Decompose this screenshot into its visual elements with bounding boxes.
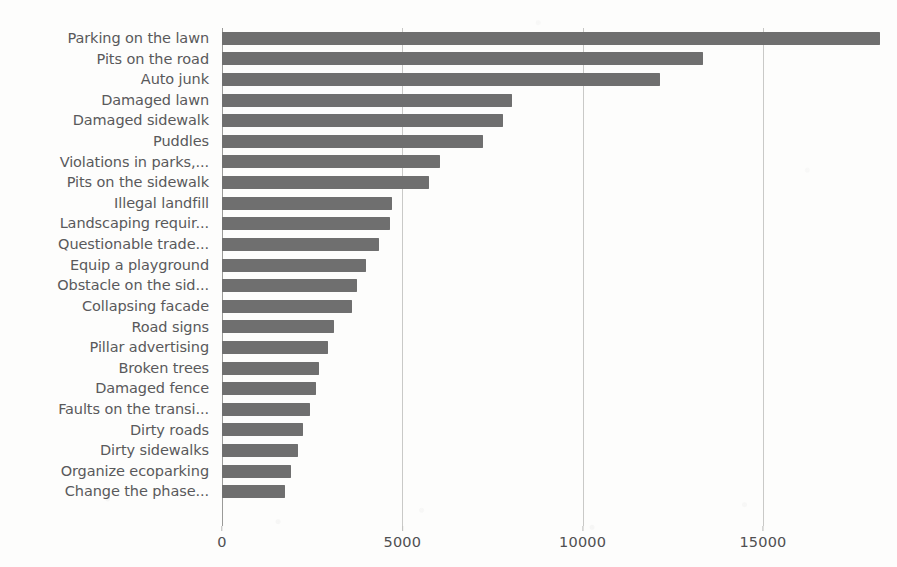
bar[interactable] (222, 73, 660, 86)
bar[interactable] (222, 135, 483, 148)
bar[interactable] (222, 465, 291, 478)
tick-mark (762, 526, 763, 531)
tick-mark (582, 526, 583, 531)
x-axis-tick: 5000 (383, 526, 421, 550)
bar-row[interactable] (222, 420, 882, 441)
x-axis-tick: 10000 (559, 526, 606, 550)
bar[interactable] (222, 341, 328, 354)
bar-row[interactable] (222, 28, 882, 49)
bar-row[interactable] (222, 255, 882, 276)
y-axis-tick-label: Obstacle on the sid... (0, 275, 216, 296)
bar[interactable] (222, 423, 303, 436)
y-axis-tick-label: Dirty roads (0, 420, 216, 441)
bar[interactable] (222, 382, 316, 395)
bar-row[interactable] (222, 378, 882, 399)
y-axis-tick-label: Landscaping requir... (0, 213, 216, 234)
x-axis-tick-label: 5000 (383, 534, 421, 550)
bar[interactable] (222, 155, 440, 168)
bar-row[interactable] (222, 234, 882, 255)
x-axis-tick-label: 0 (217, 534, 226, 550)
bar-row[interactable] (222, 152, 882, 173)
bar[interactable] (222, 485, 285, 498)
y-axis-tick-label: Change the phase... (0, 481, 216, 502)
bar-row[interactable] (222, 440, 882, 461)
bar-row[interactable] (222, 399, 882, 420)
x-axis-tick-label: 15000 (739, 534, 786, 550)
bar[interactable] (222, 114, 503, 127)
bar-chart: Parking on the lawnPits on the roadAuto … (0, 0, 897, 567)
y-axis-tick-label: Pits on the road (0, 49, 216, 70)
y-axis-tick-label: Collapsing facade (0, 296, 216, 317)
y-axis-tick-label: Dirty sidewalks (0, 440, 216, 461)
bar[interactable] (222, 300, 352, 313)
y-axis-tick-label: Questionable trade... (0, 234, 216, 255)
bar-row[interactable] (222, 69, 882, 90)
bar-row[interactable] (222, 49, 882, 70)
bar-rows (222, 28, 882, 526)
bar-row[interactable] (222, 131, 882, 152)
y-axis-category-labels: Parking on the lawnPits on the roadAuto … (0, 28, 216, 526)
bar-row[interactable] (222, 172, 882, 193)
bar[interactable] (222, 52, 703, 65)
y-axis-tick-label: Pillar advertising (0, 337, 216, 358)
bar[interactable] (222, 259, 366, 272)
y-axis-tick-label: Auto junk (0, 69, 216, 90)
bar[interactable] (222, 444, 298, 457)
y-axis-tick-label: Damaged lawn (0, 90, 216, 111)
bar-row[interactable] (222, 90, 882, 111)
bar-row[interactable] (222, 193, 882, 214)
x-axis-tick-label: 10000 (559, 534, 606, 550)
bar-row[interactable] (222, 317, 882, 338)
bar[interactable] (222, 362, 319, 375)
y-axis-tick-label: Violations in parks,... (0, 152, 216, 173)
tick-mark (402, 526, 403, 531)
bar[interactable] (222, 403, 310, 416)
y-axis-tick-label: Damaged fence (0, 378, 216, 399)
bar[interactable] (222, 279, 357, 292)
bar[interactable] (222, 238, 379, 251)
y-axis-tick-label: Damaged sidewalk (0, 110, 216, 131)
y-axis-tick-label: Faults on the transi... (0, 399, 216, 420)
bar[interactable] (222, 217, 390, 230)
bar[interactable] (222, 32, 880, 45)
y-axis-tick-label: Organize ecoparking (0, 461, 216, 482)
bar[interactable] (222, 320, 334, 333)
y-axis-tick-label: Illegal landfill (0, 193, 216, 214)
bar-row[interactable] (222, 481, 882, 502)
bar-row[interactable] (222, 461, 882, 482)
x-axis-tick: 15000 (739, 526, 786, 550)
x-axis-tick: 0 (217, 526, 226, 550)
plot-area (222, 28, 882, 526)
y-axis-tick-label: Puddles (0, 131, 216, 152)
tick-mark (222, 526, 223, 531)
x-axis: 050001000015000 (222, 526, 882, 560)
bar-row[interactable] (222, 296, 882, 317)
bar-row[interactable] (222, 358, 882, 379)
bar[interactable] (222, 197, 392, 210)
y-axis-tick-label: Pits on the sidewalk (0, 172, 216, 193)
y-axis-tick-label: Parking on the lawn (0, 28, 216, 49)
bar-row[interactable] (222, 337, 882, 358)
y-axis-tick-label: Road signs (0, 317, 216, 338)
y-axis-tick-label: Broken trees (0, 358, 216, 379)
bar-row[interactable] (222, 213, 882, 234)
bar-row[interactable] (222, 110, 882, 131)
bar[interactable] (222, 94, 512, 107)
bar-row[interactable] (222, 275, 882, 296)
y-axis-tick-label: Equip a playground (0, 255, 216, 276)
bar[interactable] (222, 176, 429, 189)
